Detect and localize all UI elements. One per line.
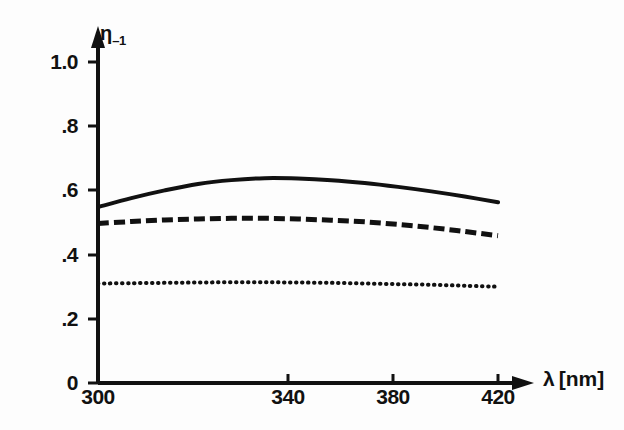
x-tick-label-420: 420: [463, 385, 533, 409]
y-axis-title-symbol: η: [100, 22, 112, 44]
dashed-curve: [98, 218, 498, 235]
y-tick-label-0.6: .6: [18, 178, 78, 202]
solid-curve: [98, 178, 498, 207]
dotted-curve: [98, 282, 498, 287]
x-axis-title: λ[nm]: [543, 367, 604, 391]
y-tick-label-1.0: 1.0: [18, 50, 78, 74]
y-tick-label-0.2: .2: [18, 307, 78, 331]
plot-canvas: [0, 0, 624, 430]
x-tick-label-300: 300: [63, 385, 133, 409]
x-axis-title-unit: [nm]: [559, 367, 605, 390]
y-axis-title-subscript: –1: [112, 33, 125, 48]
y-tick-label-0.8: .8: [18, 114, 78, 138]
y-tick-label-0.4: .4: [18, 243, 78, 267]
figure-root: 1.0 .8 .6 .4 .2 0 300 340 380 420 η–1 λ[…: [0, 0, 624, 430]
x-axis-title-symbol: λ: [543, 367, 555, 390]
x-tick-label-380: 380: [358, 385, 428, 409]
x-tick-label-340: 340: [253, 385, 323, 409]
data-curves: [98, 178, 498, 287]
y-axis-title: η–1: [100, 22, 126, 48]
